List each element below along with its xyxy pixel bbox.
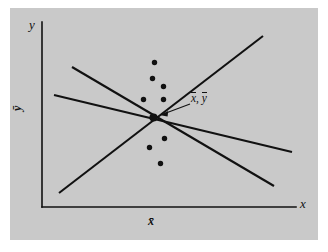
x-axis-label: x bbox=[300, 197, 306, 210]
figure-container: y x x̄ ȳ x, y bbox=[0, 0, 328, 252]
line-shallow-descending bbox=[54, 95, 292, 152]
axes-group bbox=[42, 22, 296, 207]
line-rising bbox=[59, 36, 263, 193]
regression-lines-group bbox=[54, 36, 292, 193]
scatter-plot-graphic bbox=[0, 0, 328, 252]
data-point bbox=[162, 136, 167, 141]
centroid-label-xbar: x bbox=[191, 93, 196, 105]
centroid-label-ybar: y bbox=[202, 93, 207, 105]
y-axis-label: y bbox=[29, 18, 35, 31]
data-point bbox=[152, 60, 157, 65]
data-point bbox=[161, 97, 166, 102]
data-point bbox=[147, 145, 152, 150]
line-steep-descending bbox=[72, 67, 274, 186]
y-mean-label: ȳ bbox=[11, 106, 23, 111]
data-point bbox=[150, 76, 155, 81]
data-point bbox=[161, 84, 166, 89]
data-point bbox=[141, 97, 146, 102]
x-mean-label: x̄ bbox=[148, 215, 154, 227]
centroid-label: x, y bbox=[191, 93, 207, 105]
centroid-marker bbox=[149, 113, 157, 121]
data-point bbox=[158, 161, 163, 166]
